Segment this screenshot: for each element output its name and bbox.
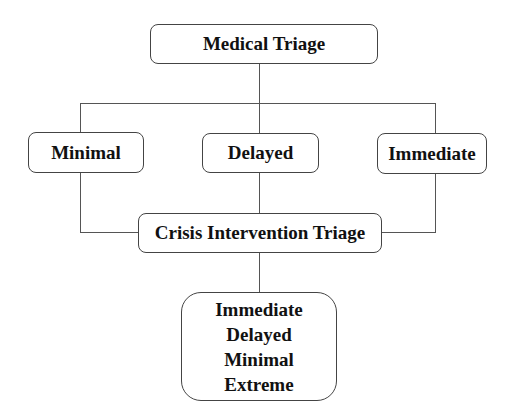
connector-minimal-down: [80, 172, 81, 233]
node-label: Immediate: [388, 143, 476, 165]
category-item: Delayed: [226, 322, 291, 347]
node-label: Delayed: [228, 142, 293, 164]
node-minimal: Minimal: [28, 132, 144, 173]
category-item: Extreme: [224, 372, 293, 397]
node-delayed: Delayed: [202, 133, 319, 173]
category-item: Immediate: [215, 297, 303, 322]
node-label: Minimal: [51, 142, 121, 164]
connector-horizontal-top: [80, 103, 436, 104]
connector-to-minimal: [80, 103, 81, 133]
connector-root-down: [259, 63, 260, 104]
connector-minimal-to-crisis: [80, 232, 138, 233]
connector-immediate-down: [435, 173, 436, 233]
node-label: Crisis Intervention Triage: [155, 222, 365, 244]
connector-immediate-to-crisis: [381, 232, 436, 233]
connector-to-immediate: [435, 103, 436, 134]
connector-crisis-to-outcome: [259, 252, 260, 292]
connector-delayed-to-crisis: [259, 172, 260, 213]
category-item: Minimal: [224, 347, 294, 372]
node-immediate: Immediate: [377, 133, 487, 174]
node-medical-triage: Medical Triage: [150, 24, 378, 64]
connector-to-delayed: [259, 103, 260, 134]
node-label: Medical Triage: [203, 33, 325, 55]
node-crisis-intervention-triage: Crisis Intervention Triage: [138, 213, 382, 253]
node-triage-categories: Immediate Delayed Minimal Extreme: [181, 292, 337, 401]
